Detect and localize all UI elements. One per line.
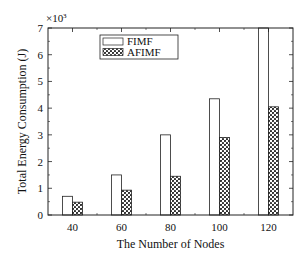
plot-area: 01234567406080100120×103The Number of No… xyxy=(15,12,293,251)
bar-afimf-100 xyxy=(220,138,230,215)
bar-chart: 01234567406080100120×103The Number of No… xyxy=(0,0,307,263)
x-tick-label: 80 xyxy=(165,221,177,233)
x-tick-label: 100 xyxy=(211,221,228,233)
bar-fimf-120 xyxy=(259,28,269,215)
y-multiplier-label: ×10 xyxy=(46,12,64,24)
x-tick-label: 40 xyxy=(67,221,79,233)
y-axis-title: Total Energy Consumption (J) xyxy=(15,49,29,194)
bar-fimf-100 xyxy=(210,99,220,215)
x-tick-label: 120 xyxy=(260,221,277,233)
bar-fimf-60 xyxy=(112,175,122,215)
x-axis-title: The Number of Nodes xyxy=(117,237,225,251)
y-tick-label: 7 xyxy=(38,22,44,34)
bar-fimf-80 xyxy=(161,135,171,215)
legend-swatch-fimf xyxy=(103,38,123,45)
y-tick-label: 2 xyxy=(38,156,44,168)
y-tick-label: 4 xyxy=(38,102,44,114)
y-tick-label: 6 xyxy=(38,49,44,61)
y-tick-label: 3 xyxy=(38,129,44,141)
bar-afimf-120 xyxy=(269,107,279,215)
y-multiplier-exponent: 3 xyxy=(63,12,67,20)
bar-afimf-40 xyxy=(73,202,83,215)
legend-label-afimf: AFIMF xyxy=(127,46,161,58)
legend-swatch-afimf xyxy=(103,49,123,56)
y-tick-label: 5 xyxy=(38,75,44,87)
bar-afimf-80 xyxy=(171,176,181,215)
bar-fimf-40 xyxy=(63,196,73,215)
y-tick-label: 1 xyxy=(38,182,44,194)
x-tick-label: 60 xyxy=(116,221,128,233)
bar-afimf-60 xyxy=(122,190,132,215)
y-tick-label: 0 xyxy=(38,209,44,221)
